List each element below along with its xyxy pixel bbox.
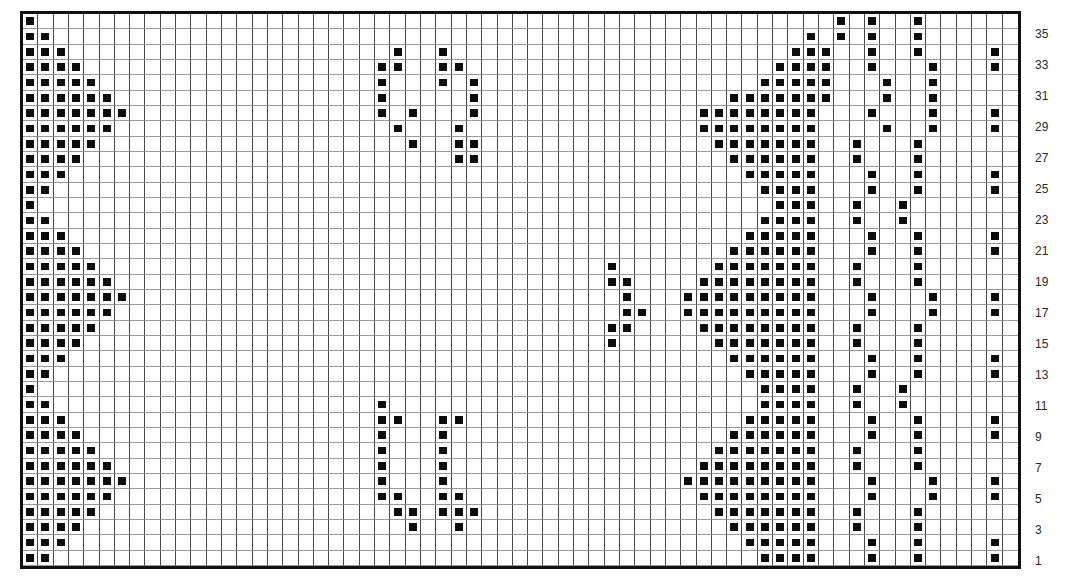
grid-cell-filled[interactable] — [850, 382, 865, 397]
grid-cell-empty[interactable] — [880, 305, 895, 320]
grid-cell-filled[interactable] — [697, 275, 712, 290]
grid-cell-empty[interactable] — [574, 213, 589, 228]
grid-cell-empty[interactable] — [375, 167, 390, 182]
grid-cell-empty[interactable] — [360, 167, 375, 182]
grid-cell-filled[interactable] — [758, 290, 773, 305]
grid-cell-empty[interactable] — [651, 305, 666, 320]
grid-cell-empty[interactable] — [957, 183, 972, 198]
grid-cell-empty[interactable] — [559, 137, 574, 152]
grid-cell-filled[interactable] — [23, 60, 38, 75]
grid-cell-empty[interactable] — [651, 45, 666, 60]
grid-cell-empty[interactable] — [987, 152, 1002, 167]
grid-cell-filled[interactable] — [850, 152, 865, 167]
grid-cell-empty[interactable] — [207, 535, 222, 550]
grid-cell-filled[interactable] — [727, 152, 742, 167]
grid-cell-empty[interactable] — [237, 152, 252, 167]
grid-cell-empty[interactable] — [559, 489, 574, 504]
grid-cell-empty[interactable] — [84, 213, 99, 228]
grid-cell-empty[interactable] — [283, 259, 298, 274]
grid-cell-empty[interactable] — [972, 152, 987, 167]
grid-cell-empty[interactable] — [390, 183, 405, 198]
grid-cell-empty[interactable] — [957, 106, 972, 121]
grid-cell-empty[interactable] — [727, 183, 742, 198]
grid-cell-empty[interactable] — [436, 91, 451, 106]
grid-cell-empty[interactable] — [712, 167, 727, 182]
grid-cell-empty[interactable] — [681, 106, 696, 121]
grid-cell-empty[interactable] — [681, 137, 696, 152]
grid-cell-empty[interactable] — [482, 259, 497, 274]
grid-cell-empty[interactable] — [896, 520, 911, 535]
grid-cell-filled[interactable] — [23, 459, 38, 474]
grid-cell-filled[interactable] — [865, 428, 880, 443]
grid-cell-empty[interactable] — [589, 152, 604, 167]
grid-cell-empty[interactable] — [314, 244, 329, 259]
grid-cell-empty[interactable] — [467, 259, 482, 274]
grid-cell-empty[interactable] — [145, 535, 160, 550]
grid-cell-filled[interactable] — [926, 121, 941, 136]
grid-cell-empty[interactable] — [896, 505, 911, 520]
grid-cell-empty[interactable] — [1003, 183, 1018, 198]
grid-cell-empty[interactable] — [559, 167, 574, 182]
grid-cell-empty[interactable] — [84, 60, 99, 75]
grid-cell-empty[interactable] — [559, 244, 574, 259]
grid-cell-empty[interactable] — [176, 244, 191, 259]
grid-cell-empty[interactable] — [574, 137, 589, 152]
grid-cell-empty[interactable] — [987, 443, 1002, 458]
grid-cell-filled[interactable] — [773, 367, 788, 382]
grid-cell-empty[interactable] — [222, 520, 237, 535]
grid-cell-empty[interactable] — [329, 413, 344, 428]
grid-cell-empty[interactable] — [329, 167, 344, 182]
grid-cell-empty[interactable] — [482, 229, 497, 244]
grid-cell-empty[interactable] — [207, 443, 222, 458]
grid-cell-empty[interactable] — [145, 474, 160, 489]
grid-cell-empty[interactable] — [543, 489, 558, 504]
grid-cell-empty[interactable] — [467, 60, 482, 75]
grid-cell-empty[interactable] — [115, 397, 130, 412]
grid-cell-empty[interactable] — [390, 336, 405, 351]
grid-cell-empty[interactable] — [329, 382, 344, 397]
grid-cell-empty[interactable] — [100, 60, 115, 75]
grid-cell-empty[interactable] — [528, 520, 543, 535]
grid-cell-empty[interactable] — [773, 14, 788, 29]
grid-cell-empty[interactable] — [176, 229, 191, 244]
grid-cell-empty[interactable] — [237, 382, 252, 397]
grid-cell-empty[interactable] — [941, 91, 956, 106]
grid-cell-empty[interactable] — [176, 382, 191, 397]
grid-cell-empty[interactable] — [344, 229, 359, 244]
grid-cell-filled[interactable] — [54, 275, 69, 290]
grid-cell-filled[interactable] — [804, 290, 819, 305]
grid-cell-empty[interactable] — [697, 244, 712, 259]
grid-cell-empty[interactable] — [390, 213, 405, 228]
grid-cell-empty[interactable] — [865, 443, 880, 458]
grid-cell-empty[interactable] — [38, 382, 53, 397]
grid-cell-filled[interactable] — [727, 443, 742, 458]
grid-cell-empty[interactable] — [1003, 367, 1018, 382]
grid-cell-filled[interactable] — [69, 259, 84, 274]
grid-cell-empty[interactable] — [528, 459, 543, 474]
grid-cell-empty[interactable] — [390, 290, 405, 305]
grid-cell-empty[interactable] — [681, 121, 696, 136]
grid-cell-empty[interactable] — [972, 60, 987, 75]
grid-cell-empty[interactable] — [1003, 474, 1018, 489]
grid-cell-filled[interactable] — [788, 351, 803, 366]
grid-cell-filled[interactable] — [452, 152, 467, 167]
grid-cell-empty[interactable] — [972, 336, 987, 351]
grid-cell-empty[interactable] — [941, 137, 956, 152]
grid-cell-empty[interactable] — [467, 535, 482, 550]
grid-cell-empty[interactable] — [513, 551, 528, 566]
grid-cell-empty[interactable] — [421, 244, 436, 259]
grid-cell-empty[interactable] — [651, 351, 666, 366]
grid-cell-empty[interactable] — [467, 183, 482, 198]
grid-cell-empty[interactable] — [498, 459, 513, 474]
grid-cell-empty[interactable] — [406, 489, 421, 504]
grid-cell-filled[interactable] — [727, 244, 742, 259]
grid-cell-filled[interactable] — [911, 505, 926, 520]
grid-cell-empty[interactable] — [283, 443, 298, 458]
grid-cell-filled[interactable] — [38, 45, 53, 60]
grid-cell-empty[interactable] — [972, 474, 987, 489]
grid-cell-filled[interactable] — [727, 137, 742, 152]
grid-cell-empty[interactable] — [421, 60, 436, 75]
grid-cell-empty[interactable] — [559, 152, 574, 167]
grid-cell-filled[interactable] — [467, 137, 482, 152]
grid-cell-empty[interactable] — [957, 336, 972, 351]
